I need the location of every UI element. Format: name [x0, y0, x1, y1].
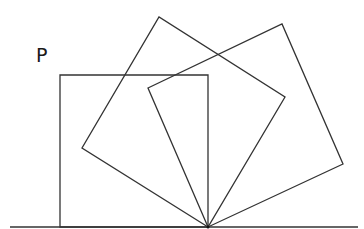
diagram-canvas: P — [0, 0, 364, 229]
upright-square — [60, 75, 208, 227]
rotated-square-2 — [148, 24, 343, 227]
pivot-point — [207, 226, 210, 229]
point-label-p: P — [36, 46, 47, 65]
diagram-svg — [0, 0, 364, 229]
rotated-square-1 — [82, 17, 285, 227]
